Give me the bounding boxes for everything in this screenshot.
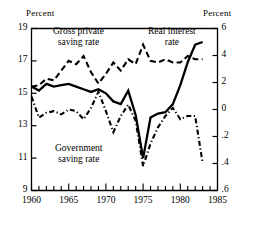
y-axis-label-left-9: 9	[23, 184, 28, 194]
plot-canvas	[0, 0, 258, 226]
y-axis-label-right-2: 2	[222, 76, 227, 86]
y-axis-label-left-15: 15	[18, 87, 28, 97]
y-axis-label-right-6: 6	[222, 22, 227, 32]
y-axis-label-left-11: 11	[18, 152, 27, 162]
series-line-real-interest-rate	[32, 42, 203, 158]
x-axis-label-1985: 1985	[208, 195, 227, 205]
series-line-gross-private-saving-rate	[32, 45, 203, 87]
y-axis-label-right-4: 4	[222, 49, 227, 59]
x-axis-label-1975: 1975	[134, 195, 153, 205]
x-axis-label-1960: 1960	[22, 195, 41, 205]
y-axis-label-right-0: 0	[222, 103, 227, 113]
y-axis-label-left-19: 19	[18, 22, 28, 32]
x-axis-label-1980: 1980	[171, 195, 190, 205]
y-axis-label-right-neg4: .4	[222, 157, 229, 167]
x-axis-label-1965: 1965	[59, 195, 78, 205]
figure-chart: Percent Percent Gross private saving rat…	[0, 0, 258, 226]
y-axis-label-left-17: 17	[18, 54, 28, 64]
y-axis-label-left-13: 13	[18, 119, 28, 129]
y-axis-label-right-neg2: .2	[222, 130, 229, 140]
x-axis-label-1970: 1970	[96, 195, 115, 205]
y-axis-label-right-neg6: .6	[222, 184, 229, 194]
